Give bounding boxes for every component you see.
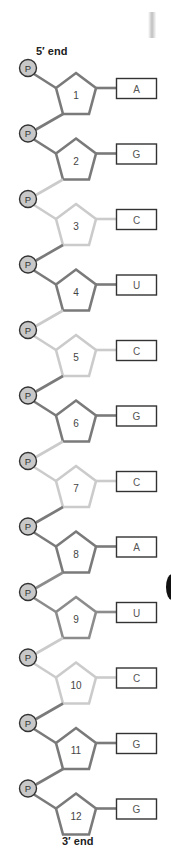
backbone-bond: [36, 573, 63, 589]
phosphate-label: P: [25, 390, 31, 401]
phosphate-label: P: [25, 128, 31, 139]
backbone-bond: [36, 638, 63, 654]
nucleotide-number: 3: [73, 221, 79, 232]
phosphate-sugar-bond: [34, 795, 56, 809]
nucleotide-10: 10CP: [20, 638, 157, 704]
backbone-bond: [36, 507, 63, 523]
phosphate-sugar-bond: [34, 271, 56, 285]
backbone-bond: [36, 704, 63, 720]
phosphate-sugar-bond: [34, 533, 56, 547]
base-letter: C: [133, 673, 140, 684]
phosphate-sugar-bond: [34, 402, 56, 416]
base-letter: G: [133, 411, 141, 422]
nucleotide-number: 7: [73, 483, 79, 494]
phosphate-sugar-bond: [34, 664, 56, 678]
base-letter: A: [133, 84, 140, 95]
nucleotide-8: 8AP: [20, 507, 157, 573]
backbone-bond: [36, 114, 63, 130]
phosphate-label: P: [25, 521, 31, 532]
nucleotide-number: 8: [73, 549, 79, 560]
nucleotide-12: 12GP: [20, 769, 157, 835]
phosphate-sugar-bond: [34, 598, 56, 612]
nucleotide-3: 3CP: [20, 180, 157, 246]
phosphate-label: P: [25, 783, 31, 794]
nucleotide-number: 4: [73, 287, 79, 298]
nucleotide-11: 11GP: [20, 704, 157, 770]
three-prime-label: 3′ end: [62, 835, 93, 847]
backbone-bond: [36, 376, 63, 392]
nucleotide-number: 6: [73, 418, 79, 429]
base-letter: G: [133, 739, 141, 750]
nucleotide-number: 12: [70, 811, 82, 822]
phosphate-label: P: [25, 63, 31, 74]
backbone-bond: [36, 311, 63, 327]
nucleotide-number: 9: [73, 614, 79, 625]
phosphate-label: P: [25, 259, 31, 270]
phosphate-label: P: [25, 718, 31, 729]
backbone-bond: [36, 180, 63, 196]
phosphate-label: P: [25, 587, 31, 598]
phosphate-sugar-bond: [34, 74, 56, 88]
nucleotide-number: 1: [73, 90, 79, 101]
nucleotide-number: 5: [73, 352, 79, 363]
nucleotide-number: 11: [71, 745, 82, 756]
base-letter: C: [133, 215, 140, 226]
base-letter: G: [133, 149, 141, 160]
backbone-bond: [36, 442, 63, 458]
phosphate-sugar-bond: [34, 205, 56, 219]
nucleotide-2: 2GP: [20, 114, 157, 180]
nucleotide-5: 5CP: [20, 311, 157, 377]
nucleotide-number: 2: [73, 156, 79, 167]
base-letter: U: [133, 608, 140, 619]
base-letter: G: [133, 804, 141, 815]
base-letter: C: [133, 346, 140, 357]
phosphate-label: P: [25, 456, 31, 467]
nucleotide-number: 10: [70, 680, 82, 691]
rna-strand-diagram: 1AP2GP3CP4UP5CP6GP7CP8AP9UP10CP11GP12GP: [0, 0, 171, 856]
phosphate-sugar-bond: [34, 336, 56, 350]
nucleotide-6: 6GP: [20, 376, 157, 442]
phosphate-label: P: [25, 194, 31, 205]
base-letter: C: [133, 477, 140, 488]
phosphate-sugar-bond: [34, 729, 56, 743]
nucleotide-7: 7CP: [20, 442, 157, 508]
backbone-bond: [36, 245, 63, 261]
base-letter: U: [133, 280, 140, 291]
backbone-bond: [36, 769, 63, 785]
nucleotide-9: 9UP: [20, 573, 157, 639]
nucleotide-4: 4UP: [20, 245, 157, 311]
nucleotide-1: 1AP: [20, 60, 157, 115]
phosphate-sugar-bond: [34, 140, 56, 154]
phosphate-label: P: [25, 652, 31, 663]
base-letter: A: [133, 542, 140, 553]
phosphate-sugar-bond: [34, 467, 56, 481]
phosphate-label: P: [25, 325, 31, 336]
